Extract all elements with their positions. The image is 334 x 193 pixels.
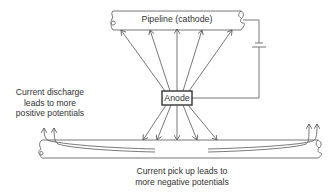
current-arrows-to-buried-pipe — [143, 105, 217, 140]
anode-label: Anode — [162, 92, 192, 104]
bottom-pipe-left-cut — [39, 140, 43, 158]
left-note-line-2: leads to more — [4, 98, 96, 109]
arrow-down-5 — [188, 105, 217, 140]
arrow-down-2 — [157, 105, 171, 140]
bottom-note: Current pick up leads to more negative p… — [122, 166, 242, 187]
bottom-note-line-1: Current pick up leads to — [122, 166, 242, 177]
arrow-up-4 — [183, 30, 202, 91]
bottom-note-line-2: more negative potentials — [122, 177, 242, 188]
bottom-pipe-right-cut — [318, 140, 322, 158]
discharge-arrow-right-1 — [208, 124, 309, 152]
buried-pipeline — [39, 140, 322, 158]
arrow-up-1 — [121, 30, 165, 91]
left-note-line-3: positive potentials — [4, 108, 96, 119]
arrow-down-4 — [183, 105, 197, 140]
left-note-line-1: Current discharge — [4, 87, 96, 98]
left-note: Current discharge leads to more positive… — [4, 87, 96, 119]
current-flow-right — [208, 124, 317, 152]
arrow-down-1 — [143, 105, 166, 140]
pipe-right-cut — [241, 11, 245, 30]
arrow-up-2 — [150, 30, 170, 91]
current-arrows-to-cathode — [121, 29, 232, 91]
battery-circuit — [192, 20, 266, 98]
arrow-up-5 — [189, 30, 232, 91]
discharge-arrow-left-1 — [44, 128, 155, 149]
pipeline-cathode-label: Pipeline (cathode) — [114, 14, 240, 25]
